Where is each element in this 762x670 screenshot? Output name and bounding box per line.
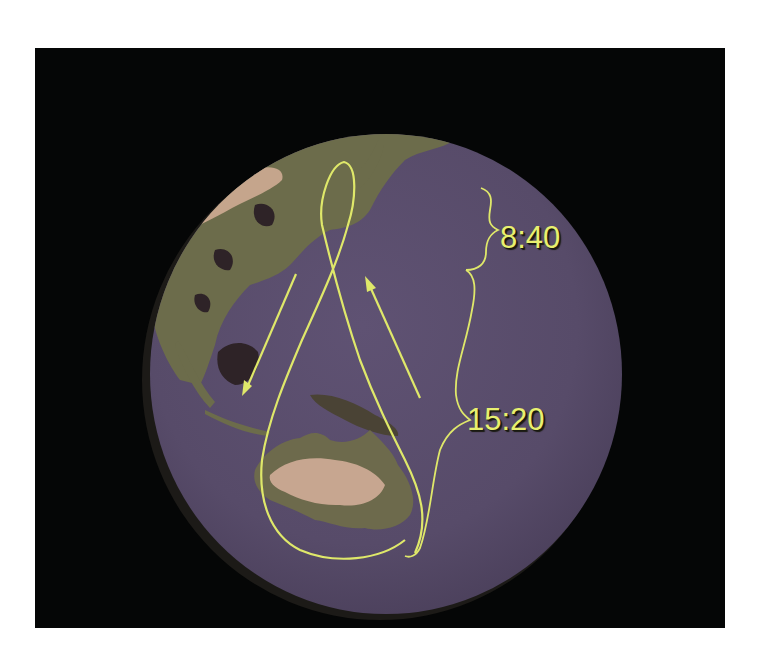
- dark-patch: [340, 109, 367, 134]
- polar-ice: [355, 96, 470, 114]
- lower-interval-label: 15:20: [467, 404, 545, 435]
- globe-diagram: [0, 0, 762, 670]
- dark-patch: [300, 114, 331, 138]
- upper-interval-label: 8:40: [500, 222, 560, 253]
